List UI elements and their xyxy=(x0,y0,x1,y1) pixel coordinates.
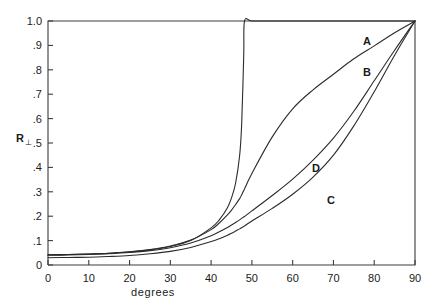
y-tick-label: .4 xyxy=(33,161,42,173)
curve-label-c: C xyxy=(327,194,335,206)
x-tick-label: 50 xyxy=(246,272,258,284)
y-axis-title-subscript: ⊥ xyxy=(25,138,32,147)
y-tick-label: .1 xyxy=(33,235,42,247)
x-axis-title: degrees xyxy=(131,286,175,298)
x-tick-label: 60 xyxy=(287,272,299,284)
y-tick-label: .9 xyxy=(33,39,42,51)
x-tick-label: 30 xyxy=(164,272,176,284)
y-tick-label: 0 xyxy=(36,259,42,271)
y-axis-title-main: R xyxy=(16,132,24,144)
curve-label-b: B xyxy=(363,66,371,78)
y-tick-label: 1.0 xyxy=(27,15,42,27)
figure-background xyxy=(0,0,442,307)
x-tick-label: 80 xyxy=(368,272,380,284)
y-tick-label: .2 xyxy=(33,210,42,222)
reflectance-figure: 0.1.2.3.4.5.6.7.8.91.0 01020304050607080… xyxy=(0,0,442,307)
x-tick-label: 20 xyxy=(123,272,135,284)
x-tick-label: 40 xyxy=(205,272,217,284)
plot-canvas: 0.1.2.3.4.5.6.7.8.91.0 01020304050607080… xyxy=(0,0,442,307)
y-tick-label: .8 xyxy=(33,64,42,76)
x-tick-label: 10 xyxy=(83,272,95,284)
y-tick-label: .6 xyxy=(33,113,42,125)
curve-label-d: D xyxy=(312,162,320,174)
curve-label-a: A xyxy=(363,35,371,47)
y-tick-label: .7 xyxy=(33,88,42,100)
x-tick-label: 90 xyxy=(409,272,421,284)
y-tick-label: .5 xyxy=(33,137,42,149)
y-tick-label: .3 xyxy=(33,186,42,198)
x-tick-label: 0 xyxy=(45,272,51,284)
x-tick-label: 70 xyxy=(327,272,339,284)
